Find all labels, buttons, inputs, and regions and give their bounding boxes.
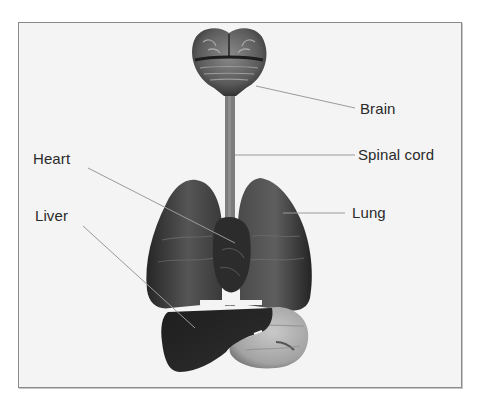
brain [192,28,266,96]
brain-label: Brain [360,100,396,117]
spinal-cord-label: Spinal cord [358,146,434,163]
lung-label: Lung [352,204,386,221]
brain-leader-line [256,86,355,108]
heart-label: Heart [33,150,70,167]
organ-illustration [0,0,482,400]
left-lung [146,180,222,309]
liver-label: Liver [35,207,68,224]
